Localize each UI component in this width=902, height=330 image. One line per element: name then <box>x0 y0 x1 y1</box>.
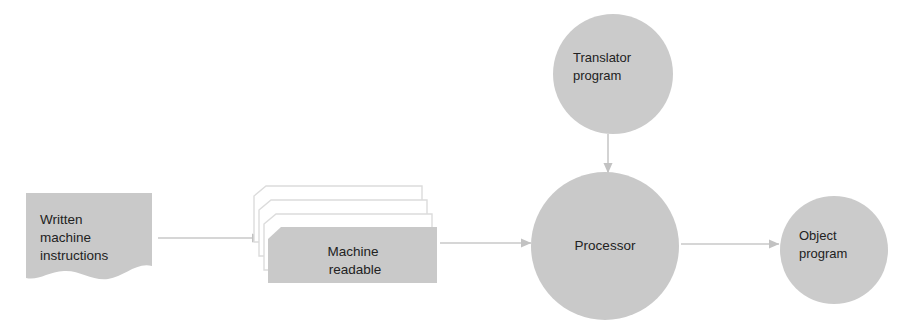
diagram-canvas: Written machine instructions Machine rea… <box>0 0 902 330</box>
node-line: machine <box>40 230 91 245</box>
node-line: program <box>799 246 847 261</box>
node-line: Machine <box>328 244 379 259</box>
node-object-program: Object program <box>780 196 888 304</box>
node-line: readable <box>329 262 382 277</box>
node-line: instructions <box>40 248 109 263</box>
node-machine-readable: Machine readable <box>254 186 437 283</box>
node-line: Translator <box>573 50 632 65</box>
node-line: Processor <box>575 238 636 253</box>
node-line: program <box>573 68 621 83</box>
node-processor: Processor <box>531 172 679 320</box>
flow-diagram: Written machine instructions Machine rea… <box>0 0 902 330</box>
node-line: Written <box>40 212 83 227</box>
node-written-machine-instructions: Written machine instructions <box>26 193 152 279</box>
node-translator-program: Translator program <box>553 14 673 134</box>
node-line: Object <box>799 228 837 243</box>
node-label-group: Processor <box>575 238 636 253</box>
